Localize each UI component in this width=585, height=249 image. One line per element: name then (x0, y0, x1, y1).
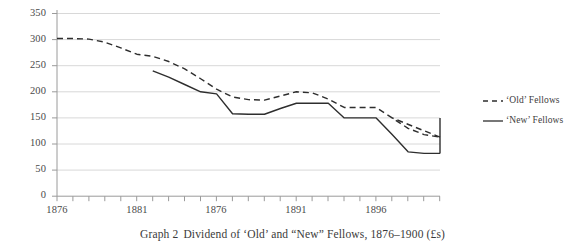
y-axis-ticks (52, 14, 57, 197)
figure-caption: Graph 2Dividend of ‘Old’ and “New” Fello… (0, 228, 585, 240)
caption-number: Graph 2 (140, 228, 178, 240)
y-tick-label-0: 0 (14, 189, 46, 200)
gridlines (57, 14, 440, 171)
x-tick-label-5: 1896 (353, 204, 399, 215)
data-series-layer (57, 39, 440, 154)
y-tick-label-300: 300 (14, 33, 46, 44)
caption-text: Dividend of ‘Old’ and “New” Fellows, 187… (183, 228, 445, 240)
y-tick-label-100: 100 (14, 137, 46, 148)
y-tick-label-200: 200 (14, 85, 46, 96)
x-tick-label-3: 1876 (193, 204, 239, 215)
y-tick-label-150: 150 (14, 111, 46, 122)
series-line-new-fellows (153, 71, 440, 153)
legend-label-new-fellows: ‘New’ Fellows (506, 115, 563, 125)
x-axis-ticks (57, 196, 440, 201)
x-tick-label-1: 1876 (34, 204, 80, 215)
y-tick-label-250: 250 (14, 59, 46, 70)
x-tick-label-2: 1881 (114, 204, 160, 215)
y-tick-label-50: 50 (14, 163, 46, 174)
figure-container: 350 300 250 200 150 100 50 0 1876 1881 1… (0, 0, 585, 249)
series-line-old-fellows (57, 39, 440, 138)
legend-swatches (483, 101, 503, 121)
y-tick-label-350: 350 (14, 7, 46, 18)
legend-label-old-fellows: ‘Old’ Fellows (506, 95, 560, 105)
series-line-old-fellows-tail (392, 118, 440, 137)
x-tick-label-4: 1891 (273, 204, 319, 215)
